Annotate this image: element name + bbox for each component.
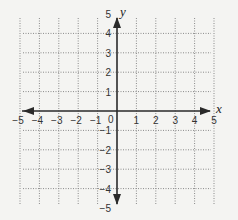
y-tick-label: 4 <box>105 28 111 39</box>
axes <box>22 17 211 205</box>
x-tick-label: 1 <box>134 115 140 126</box>
origin-label: 0 <box>108 114 114 125</box>
x-tick-label: −4 <box>32 115 44 126</box>
x-tick-label: 3 <box>172 115 178 126</box>
coordinate-plane: −5−4−3−2−11234554321−1−2−3−4−5 x y 0 <box>0 0 238 220</box>
y-tick-label: 1 <box>105 87 111 98</box>
y-axis-label: y <box>118 4 126 19</box>
x-tick-label: 4 <box>192 115 198 126</box>
x-axis-right-arrow <box>200 107 211 115</box>
y-tick-label: 5 <box>105 9 111 20</box>
y-tick-label: −1 <box>100 125 112 136</box>
y-tick-label: −4 <box>100 184 112 195</box>
x-tick-label: 2 <box>153 115 159 126</box>
y-tick-label: −5 <box>100 203 112 214</box>
y-tick-label: −3 <box>100 164 112 175</box>
y-tick-label: −2 <box>100 145 112 156</box>
y-axis-down-arrow <box>113 194 121 205</box>
x-tick-label: 5 <box>211 115 217 126</box>
x-tick-label: −1 <box>90 115 102 126</box>
x-tick-label: −2 <box>70 115 82 126</box>
y-tick-label: 2 <box>105 67 111 78</box>
x-tick-label: −5 <box>12 115 24 126</box>
x-axis-left-arrow <box>23 107 34 115</box>
y-tick-label: 3 <box>105 48 111 59</box>
x-axis-label: x <box>215 101 222 116</box>
x-tick-label: −3 <box>51 115 63 126</box>
